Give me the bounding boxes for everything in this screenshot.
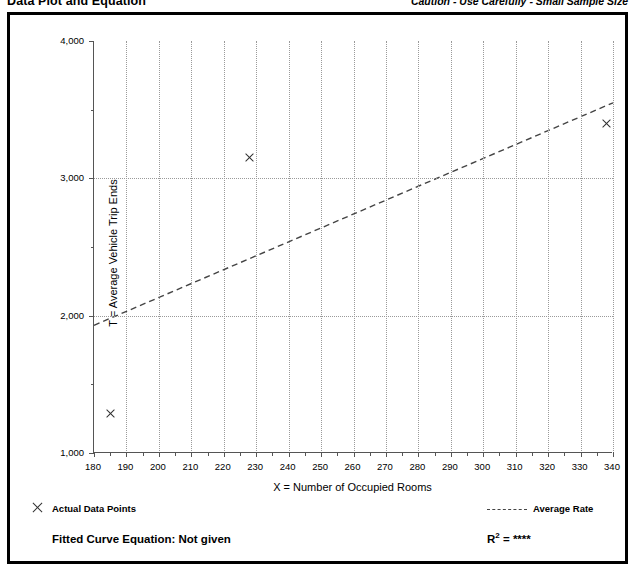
x-axis-tick: [581, 452, 582, 457]
x-axis-minor-tick: [143, 452, 144, 456]
x-axis-tick: [159, 452, 160, 457]
x-gridline: [126, 41, 127, 453]
x-axis-minor-tick: [499, 452, 500, 456]
x-axis-minor-tick: [208, 452, 209, 456]
x-axis-minor-tick: [532, 452, 533, 456]
x-axis-tick: [191, 452, 192, 457]
x-axis-tick: [516, 452, 517, 457]
y-gridline: [94, 178, 613, 179]
x-axis-tick: [126, 452, 127, 457]
x-gridline: [386, 41, 387, 453]
x-axis-minor-tick: [467, 452, 468, 456]
x-axis-tick: [483, 452, 484, 457]
legend-dashed-line-icon: [487, 509, 527, 510]
y-axis-minor-tick: [91, 110, 95, 111]
x-axis-tick: [386, 452, 387, 457]
x-axis-minor-tick: [337, 452, 338, 456]
y-tick-label: 3,000: [38, 172, 84, 183]
y-axis-tick: [89, 178, 94, 179]
x-axis-minor-tick: [272, 452, 273, 456]
x-gridline: [548, 41, 549, 453]
x-gridline: [451, 41, 452, 453]
x-gridline: [256, 41, 257, 453]
legend-x-marker-icon: [31, 501, 44, 514]
x-gridline: [191, 41, 192, 453]
x-gridline: [581, 41, 582, 453]
plot-area: [93, 41, 612, 453]
y-axis-tick: [89, 453, 94, 454]
x-axis-tick: [289, 452, 290, 457]
y-tick-label: 4,000: [38, 35, 84, 46]
x-gridline: [516, 41, 517, 453]
x-axis-tick: [354, 452, 355, 457]
x-axis-tick: [224, 452, 225, 457]
y-axis-tick: [89, 41, 94, 42]
x-tick-label: 340: [592, 461, 632, 472]
y-tick-label: 1,000: [38, 447, 84, 458]
x-axis-minor-tick: [305, 452, 306, 456]
x-axis-tick: [256, 452, 257, 457]
x-gridline: [613, 41, 614, 453]
x-axis-tick: [418, 452, 419, 457]
x-axis-minor-tick: [597, 452, 598, 456]
y-axis-tick: [89, 316, 94, 317]
x-axis-tick: [548, 452, 549, 457]
r-squared-value: R2 = ****: [487, 531, 531, 545]
x-axis-minor-tick: [370, 452, 371, 456]
x-gridline: [159, 41, 160, 453]
r-squared-number: = ****: [503, 533, 531, 545]
y-axis-minor-tick: [91, 384, 95, 385]
r-squared-exponent: 2: [495, 531, 499, 540]
y-axis-minor-tick: [91, 247, 95, 248]
legend-actual-data-points-label: Actual Data Points: [52, 503, 136, 514]
x-axis-minor-tick: [110, 452, 111, 456]
x-gridline: [224, 41, 225, 453]
x-axis-minor-tick: [435, 452, 436, 456]
y-gridline: [94, 316, 613, 317]
fitted-curve-equation: Fitted Curve Equation: Not given: [52, 533, 231, 545]
x-axis-minor-tick: [402, 452, 403, 456]
x-axis-tick: [451, 452, 452, 457]
x-gridline: [418, 41, 419, 453]
x-gridline: [321, 41, 322, 453]
x-gridline: [483, 41, 484, 453]
x-axis-tick: [613, 452, 614, 457]
x-axis-minor-tick: [240, 452, 241, 456]
x-gridline: [354, 41, 355, 453]
x-axis-minor-tick: [175, 452, 176, 456]
x-gridline: [289, 41, 290, 453]
x-axis-tick: [321, 452, 322, 457]
legend-average-rate-label: Average Rate: [533, 503, 593, 514]
x-axis-title: X = Number of Occupied Rooms: [93, 481, 612, 493]
x-axis-tick: [94, 452, 95, 457]
y-tick-label: 2,000: [38, 310, 84, 321]
x-axis-minor-tick: [564, 452, 565, 456]
